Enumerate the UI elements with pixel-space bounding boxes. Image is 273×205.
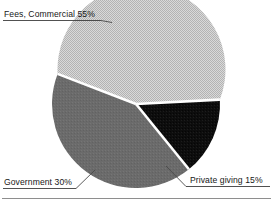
slice-label-private-giving: Private giving 15% — [190, 175, 263, 185]
pie-chart-svg: Fees, Commercial 55% Government 30% Priv… — [0, 0, 273, 205]
slice-label-fees-commercial: Fees, Commercial 55% — [4, 9, 95, 19]
pie-chart-figure: Fees, Commercial 55% Government 30% Priv… — [0, 0, 273, 205]
slice-label-government: Government 30% — [4, 177, 72, 187]
